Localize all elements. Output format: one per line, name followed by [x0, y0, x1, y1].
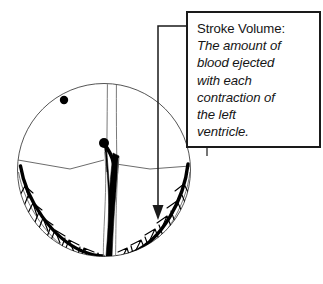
callout-body-line-4: contraction of: [197, 89, 319, 106]
callout-body-line-5: the left: [197, 106, 319, 123]
stroke-volume-callout-box: Stroke Volume: The amount of blood eject…: [186, 11, 321, 148]
upper-marker-dot: [60, 96, 68, 104]
callout-body-line-1: The amount of: [197, 37, 319, 54]
callout-heading: Stroke Volume:: [197, 20, 319, 37]
callout-body-line-6: ventricle.: [197, 123, 319, 140]
figure-canvas: Stroke Volume: The amount of blood eject…: [0, 0, 323, 284]
callout-body-line-2: blood ejected: [197, 54, 319, 71]
septum-marker-dot: [99, 138, 109, 148]
callout-body-line-3: with each: [197, 72, 319, 89]
